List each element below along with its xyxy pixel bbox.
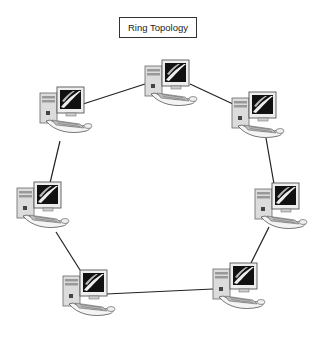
computer-icon-bottom-right (213, 263, 265, 309)
computer-icon-top-left (40, 87, 92, 133)
computer-icon-top (145, 60, 197, 106)
computer-icon-mid-left (17, 182, 69, 228)
computer-icon-top-right (232, 92, 284, 138)
computer-icon-mid-right (255, 183, 307, 229)
computer-icon-bottom-left (63, 270, 115, 316)
ring-topology-diagram (0, 0, 315, 339)
diagram-title: Ring Topology (119, 17, 197, 38)
